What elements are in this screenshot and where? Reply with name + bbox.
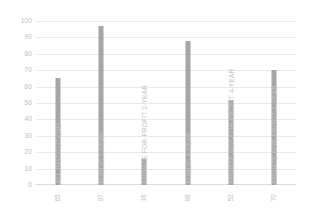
x-tick-label: 70 [271, 194, 278, 201]
bar-chart: 100 90 80 70 60 50 40 30 20 10 0 ALL INS… [0, 0, 312, 211]
y-tick-label: 30 [12, 133, 32, 140]
x-tick-slot: 65 [36, 186, 79, 211]
y-tick-label: 60 [12, 84, 32, 91]
y-tick-label: 80 [12, 51, 32, 58]
y-tick-label: 50 [12, 100, 32, 107]
plot-area: ALL INSTITUTIONS PUBLIC 2-YEAR PRIVATE F… [36, 21, 296, 185]
bar-category-label: PUBLIC 2-YEAR [98, 132, 105, 183]
y-axis: 100 90 80 70 60 50 40 30 20 10 0 [12, 21, 32, 185]
y-tick-label: 0 [12, 182, 32, 189]
x-tick-slot: 88 [166, 186, 209, 211]
x-tick-label: 65 [54, 194, 61, 201]
x-axis: 65 97 16 88 52 70 [36, 186, 296, 211]
x-tick-label: 97 [98, 194, 105, 201]
x-tick-slot: 52 [209, 186, 252, 211]
bar-category-label: ALL INSTITUTIONS [55, 122, 62, 183]
x-tick-slot: 97 [79, 186, 122, 211]
x-tick-label: 16 [141, 194, 148, 201]
y-tick-label: 20 [12, 149, 32, 156]
bar-group: PRIVATE FOR-PROFIT 2-YEAR [123, 21, 166, 185]
y-tick-label: 70 [12, 67, 32, 74]
y-tick-label: 10 [12, 166, 32, 173]
y-tick-label: 100 [12, 18, 32, 25]
x-tick-label: 52 [228, 194, 235, 201]
bar-category-label: PRIVATE FOR-PROFIT 4-YEAR [272, 84, 279, 183]
x-tick-label: 88 [184, 194, 191, 201]
bar-group: PRIVATE NOT-FOR-PROFIT 4-YEAR [209, 21, 252, 185]
x-tick-slot: 70 [253, 186, 296, 211]
bar-group: PUBLIC 2-YEAR [79, 21, 122, 185]
x-tick-slot: 16 [123, 186, 166, 211]
bar-group: ALL INSTITUTIONS [36, 21, 79, 185]
bar-category-label: PRIVATE NOT-FOR-PROFIT 4-YEAR [228, 68, 235, 183]
bar-group: PRIVATE FOR-PROFIT 4-YEAR [253, 21, 296, 185]
y-tick-label: 40 [12, 116, 32, 123]
bar-category-label: PRIVATE FOR-PROFIT 2-YEAR [142, 84, 149, 183]
bar-group: PUBLIC 4-YEAR [166, 21, 209, 185]
bar-category-label: PUBLIC 4-YEAR [185, 132, 192, 183]
y-tick-label: 90 [12, 34, 32, 41]
